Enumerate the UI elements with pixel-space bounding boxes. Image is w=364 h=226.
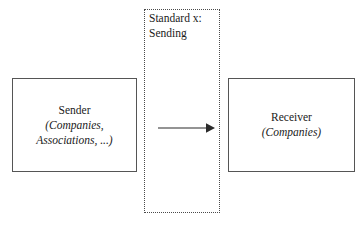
sender-node-title: Sender xyxy=(13,103,136,118)
receiver-node-subtitle: (Companies) xyxy=(229,125,354,140)
sender-node-text: Sender (Companies, Associations, ...) xyxy=(13,103,136,148)
diagram-canvas: Standard x: Sending Sender (Companies, A… xyxy=(0,0,364,226)
receiver-node-title: Receiver xyxy=(229,110,354,125)
receiver-node: Receiver (Companies) xyxy=(228,78,355,172)
receiver-node-text: Receiver (Companies) xyxy=(229,110,354,140)
sender-node: Sender (Companies, Associations, ...) xyxy=(12,78,137,172)
standard-channel-label: Standard x: Sending xyxy=(149,11,221,40)
sender-node-subtitle: (Companies, Associations, ...) xyxy=(13,118,136,148)
sending-arrow-icon xyxy=(156,119,216,137)
